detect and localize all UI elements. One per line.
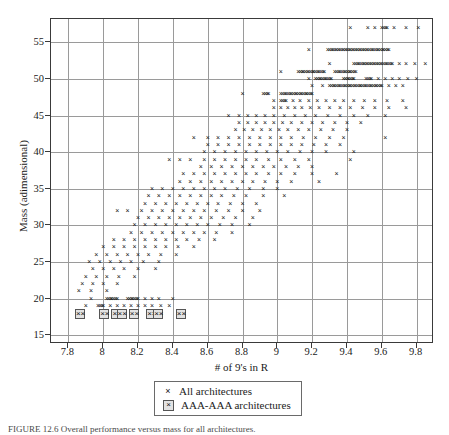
y-axis-tick-mark (45, 151, 50, 152)
x-axis-ticks: 7.888.28.48.68.899.29.49.69.8 (0, 346, 449, 362)
y-axis-tick-mark (45, 115, 50, 116)
legend-entry-all-architectures: × All architectures (161, 384, 291, 398)
y-axis-tick-label: 15 (8, 329, 44, 340)
y-axis-tick-mark (45, 224, 50, 225)
y-axis-tick-mark (45, 334, 50, 335)
y-axis-tick-label: 20 (8, 292, 44, 303)
y-axis-tick-mark (45, 41, 50, 42)
x-axis-tick-mark (172, 343, 173, 348)
x-axis-tick-mark (416, 343, 417, 348)
x-axis-tick-mark (311, 343, 312, 348)
legend-label-aaa-aaa-architectures: AAA-AAA architectures (181, 399, 291, 411)
x-axis-tick-mark (242, 343, 243, 348)
x-marker-icon: × (161, 386, 175, 396)
y-axis-tick-mark (45, 298, 50, 299)
x-axis-tick-mark (207, 343, 208, 348)
y-axis-tick-mark (45, 188, 50, 189)
x-axis-title: # of 9's in R (50, 361, 433, 373)
y-axis-tick-label: 50 (8, 73, 44, 84)
figure-container: ×××××××× 152025303540455055 7.888.28.48.… (0, 0, 449, 435)
x-axis-tick-mark (137, 343, 138, 348)
boxed-x-marker-icon: × (163, 400, 174, 411)
y-axis-tick-mark (45, 261, 50, 262)
legend: × All architectures × AAA-AAA architectu… (154, 381, 302, 416)
y-axis-tick-label: 55 (8, 36, 44, 47)
x-axis-tick-mark (67, 343, 68, 348)
legend-entry-aaa-aaa-architectures: × AAA-AAA architectures (161, 398, 291, 412)
y-axis-tick-mark (45, 78, 50, 79)
x-axis-tick-mark (102, 343, 103, 348)
x-axis-tick-mark (276, 343, 277, 348)
legend-label-all-architectures: All architectures (179, 385, 252, 397)
x-axis-tick-mark (381, 343, 382, 348)
figure-caption: FIGURE 12.6 Overall performance versus m… (8, 424, 444, 435)
y-axis-title: Mass (adimensional) (17, 101, 29, 271)
x-axis-tick-mark (346, 343, 347, 348)
